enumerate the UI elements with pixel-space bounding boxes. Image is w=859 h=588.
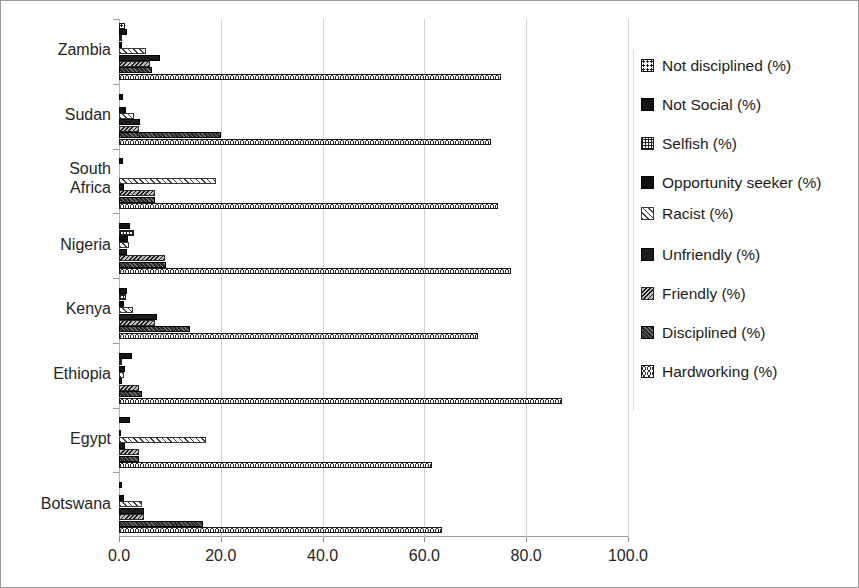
bar	[119, 359, 122, 365]
legend-item: Not Social (%)	[641, 95, 853, 114]
legend-swatch	[641, 176, 654, 189]
bar	[119, 119, 140, 125]
bar	[119, 437, 206, 443]
legend-label: Racist (%)	[662, 204, 733, 223]
x-tick-label: 40.0	[288, 547, 358, 565]
bar	[119, 495, 124, 501]
bar	[119, 223, 130, 229]
y-axis-category-label: Kenya	[1, 299, 111, 318]
bar	[119, 139, 491, 145]
bar	[119, 514, 144, 520]
bar	[119, 378, 122, 384]
legend-swatch	[641, 248, 654, 261]
bar	[119, 236, 128, 242]
legend-item: Friendly (%)	[641, 284, 853, 303]
legend-item: Not disciplined (%)	[641, 56, 853, 75]
y-axis-category-label: Egypt	[1, 429, 111, 448]
bar	[119, 508, 144, 514]
legend-label: Not Social (%)	[662, 95, 761, 114]
tickmark	[526, 537, 527, 542]
bar	[119, 132, 221, 138]
x-tick-label: 0.0	[84, 547, 154, 565]
bar-group	[119, 408, 628, 473]
legend-swatch	[641, 287, 654, 300]
bar	[119, 417, 130, 423]
legend-swatch	[641, 137, 654, 150]
bar	[119, 307, 133, 313]
tickmark	[119, 537, 120, 542]
bar	[119, 366, 125, 372]
bar	[119, 456, 139, 462]
bar	[119, 203, 498, 209]
legend-item: Racist (%)	[641, 204, 853, 223]
legend-item: Hardworking (%)	[641, 362, 853, 381]
legend-item: Unfriendly (%)	[641, 245, 853, 264]
legend-item: Opportunity seeker (%)	[641, 173, 853, 192]
x-tick-label: 80.0	[491, 547, 561, 565]
legend-swatch	[641, 365, 654, 378]
tickmark	[323, 537, 324, 542]
bar	[119, 48, 146, 54]
bar	[119, 67, 152, 73]
bar-group	[119, 472, 628, 537]
bar	[119, 288, 127, 294]
x-tick-label: 100.0	[593, 547, 663, 565]
y-axis-category-label: Ethiopia	[1, 364, 111, 383]
bar	[119, 94, 123, 100]
bar	[119, 353, 132, 359]
legend-label: Opportunity seeker (%)	[662, 173, 821, 192]
legend-swatch	[641, 326, 654, 339]
bar-group	[119, 84, 628, 149]
bar	[119, 197, 155, 203]
y-axis-category-label: Sudan	[1, 105, 111, 124]
bar	[119, 501, 142, 507]
bar	[119, 74, 501, 80]
bar	[119, 372, 124, 378]
bar	[119, 107, 126, 113]
y-axis-category-label: SouthAfrica	[1, 159, 111, 197]
bar-group	[119, 278, 628, 343]
bar	[119, 482, 122, 488]
bar	[119, 158, 123, 164]
legend-swatch	[641, 98, 654, 111]
gridline	[628, 19, 629, 537]
category-separator	[113, 472, 119, 473]
x-tick-label: 60.0	[389, 547, 459, 565]
bar	[119, 190, 155, 196]
bar	[119, 443, 125, 449]
legend-label: Friendly (%)	[662, 284, 746, 303]
bar	[119, 320, 155, 326]
tickmark	[628, 537, 629, 542]
bar	[119, 55, 160, 61]
category-separator	[113, 408, 119, 409]
bar	[119, 333, 478, 339]
category-separator	[113, 343, 119, 344]
y-axis-category-label: Zambia	[1, 40, 111, 59]
bar	[119, 398, 562, 404]
bar-group	[119, 343, 628, 408]
legend-swatch	[641, 59, 654, 72]
legend-swatch	[641, 207, 654, 220]
bar	[119, 42, 122, 48]
bar	[119, 29, 127, 35]
legend-label: Not disciplined (%)	[662, 56, 791, 75]
legend-label: Disciplined (%)	[662, 323, 765, 342]
bar	[119, 178, 216, 184]
bar	[119, 314, 157, 320]
bar	[119, 521, 203, 527]
bar	[119, 249, 127, 255]
bar	[119, 385, 139, 391]
legend-item: Disciplined (%)	[641, 323, 853, 342]
bar	[119, 255, 165, 261]
category-separator	[113, 149, 119, 150]
bar	[119, 113, 134, 119]
bar	[119, 126, 139, 132]
bar	[119, 527, 442, 533]
bar	[119, 268, 511, 274]
bar	[119, 262, 166, 268]
legend: Not disciplined (%)Not Social (%)Selfish…	[641, 56, 853, 401]
bar	[119, 462, 432, 468]
bar-group	[119, 19, 628, 84]
bar	[119, 430, 121, 436]
bar	[119, 35, 122, 41]
